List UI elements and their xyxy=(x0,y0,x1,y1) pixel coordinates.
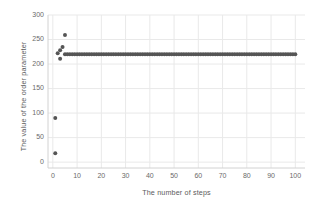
x-tick-label: 40 xyxy=(137,172,163,179)
data-point xyxy=(58,57,62,61)
x-tick-label: 100 xyxy=(282,172,308,179)
x-tick-label: 10 xyxy=(64,172,90,179)
x-tick-label: 30 xyxy=(113,172,139,179)
x-tick-label: 80 xyxy=(234,172,260,179)
axis-lines xyxy=(48,15,305,168)
y-axis-title: The value of the order parameter xyxy=(19,27,28,167)
data-point xyxy=(53,151,57,155)
data-point xyxy=(61,45,65,49)
data-point xyxy=(63,33,67,37)
data-points xyxy=(53,33,297,155)
data-point xyxy=(293,52,297,56)
x-tick-label: 90 xyxy=(258,172,284,179)
data-point xyxy=(58,48,62,52)
x-tick-label: 0 xyxy=(40,172,66,179)
x-tick-label: 60 xyxy=(185,172,211,179)
y-tick-label: 300 xyxy=(18,11,44,18)
grid-lines xyxy=(48,15,305,168)
x-tick-label: 50 xyxy=(161,172,187,179)
data-point xyxy=(53,116,57,120)
scatter-chart-figure: 0501001502002503000102030405060708090100… xyxy=(0,0,322,206)
x-tick-label: 20 xyxy=(88,172,114,179)
x-axis-title: The number of steps xyxy=(48,188,305,197)
x-tick-label: 70 xyxy=(210,172,236,179)
